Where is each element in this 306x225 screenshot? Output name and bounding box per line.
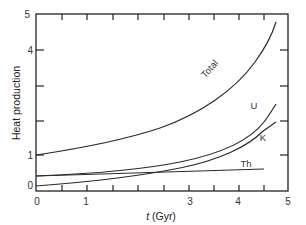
heat-production-chart: 0 1 3 4 5 5 4 1 0 Heat production t (Gyr… (0, 0, 306, 225)
curve-total (36, 22, 276, 155)
curve-th (36, 169, 264, 176)
y-tick-label-1: 1 (27, 150, 33, 161)
curve-k (36, 122, 276, 186)
y-tick-label-5: 5 (24, 9, 30, 20)
x-axis-ticks-bottom (62, 185, 264, 191)
x-axis-unit: (Gyr) (149, 210, 176, 222)
x-axis-title: t (Gyr) (146, 210, 176, 222)
curve-label-u: U (251, 100, 258, 111)
y-axis-ticks-right (280, 50, 288, 155)
x-tick-label-0: 0 (34, 196, 40, 207)
curve-label-th: Th (240, 158, 251, 169)
x-axis-ticks-top (62, 14, 264, 20)
curve-label-k: K (260, 132, 267, 143)
y-tick-label-0: 0 (27, 180, 33, 191)
x-tick-label-3: 3 (187, 196, 193, 207)
curve-label-total: Total (199, 58, 221, 80)
y-axis-ticks-left (36, 50, 44, 155)
y-axis-title: Heat production (10, 66, 22, 140)
x-tick-label-5: 5 (285, 196, 291, 207)
x-tick-label-4: 4 (235, 196, 241, 207)
y-tick-label-4: 4 (27, 45, 33, 56)
x-tick-label-1: 1 (83, 196, 89, 207)
